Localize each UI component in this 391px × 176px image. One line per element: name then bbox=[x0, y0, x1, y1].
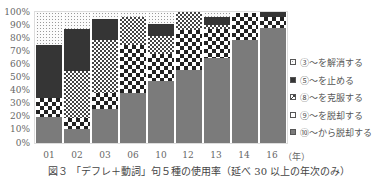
legend-item: ⑩～から脱却する bbox=[290, 126, 372, 138]
bar-segment bbox=[260, 12, 286, 17]
bar-16 bbox=[260, 12, 286, 143]
legend-label: ⑩～から脱却する bbox=[300, 126, 372, 139]
bar-02 bbox=[64, 12, 90, 143]
bar-segment bbox=[92, 109, 118, 143]
y-tick: 10% bbox=[0, 124, 30, 134]
bar-13 bbox=[204, 12, 230, 143]
bar-segment bbox=[204, 58, 230, 143]
black-swatch-icon bbox=[290, 77, 296, 83]
y-tick: 80% bbox=[0, 33, 30, 43]
y-tick: 100% bbox=[0, 7, 30, 17]
x-tick: 12 bbox=[175, 150, 201, 160]
bar-01 bbox=[36, 12, 62, 143]
y-tick: 40% bbox=[0, 85, 30, 95]
bar-segment bbox=[36, 45, 62, 99]
bar-segment bbox=[120, 12, 146, 17]
small-checker-swatch-icon bbox=[290, 94, 296, 100]
y-tick: 20% bbox=[0, 111, 30, 121]
bar-segment bbox=[64, 12, 90, 29]
bar-segment bbox=[148, 36, 174, 54]
bar-segment bbox=[176, 12, 202, 30]
bar-segment bbox=[92, 12, 118, 19]
bar-segment bbox=[232, 40, 258, 143]
bar-segment bbox=[232, 12, 258, 13]
bar-12 bbox=[176, 12, 202, 143]
x-tick: 14 bbox=[231, 150, 257, 160]
bar-segment bbox=[92, 93, 118, 109]
x-tick: 13 bbox=[203, 150, 229, 160]
bar-segment bbox=[232, 13, 258, 39]
legend-label: ⑧～を克服する bbox=[300, 91, 363, 104]
bar-segment bbox=[204, 25, 230, 29]
legend-item: ⑨～を脱却する bbox=[290, 109, 363, 121]
y-tick: 0% bbox=[0, 138, 30, 148]
bar-segment bbox=[64, 29, 90, 71]
bar-06 bbox=[120, 12, 146, 143]
bar-03 bbox=[92, 12, 118, 143]
y-tick: 50% bbox=[0, 72, 30, 82]
bar-segment bbox=[64, 129, 90, 143]
big-checker-swatch-icon bbox=[290, 112, 296, 118]
legend-item: ⑧～を克服する bbox=[290, 91, 363, 103]
y-tick: 60% bbox=[0, 59, 30, 69]
legend-label: ③～を解消する bbox=[300, 56, 363, 69]
bar-segment bbox=[64, 118, 90, 128]
y-tick: 70% bbox=[0, 46, 30, 56]
bar-10 bbox=[148, 12, 174, 143]
x-tick: 06 bbox=[120, 150, 146, 160]
bar-segment bbox=[120, 17, 146, 45]
bar-segment bbox=[148, 24, 174, 36]
bar-segment bbox=[92, 19, 118, 40]
bar-segment bbox=[64, 71, 90, 118]
y-tick: 90% bbox=[0, 20, 30, 30]
x-tick: 02 bbox=[64, 150, 90, 160]
legend-item: ③～を解消する bbox=[290, 56, 363, 68]
gray-swatch-icon bbox=[290, 129, 296, 135]
x-tick: 03 bbox=[92, 150, 118, 160]
figure-caption: 図３ 「デフレ＋動詞」句５種の使用率（延べ 30 以上の年次のみ） bbox=[48, 163, 350, 176]
x-tick: 10 bbox=[148, 150, 174, 160]
legend-label: ⑨～を脱却する bbox=[300, 109, 363, 122]
y-tick: 30% bbox=[0, 98, 30, 108]
bar-segment bbox=[36, 12, 62, 45]
x-axis-unit: （年） bbox=[283, 150, 313, 163]
bar-segment bbox=[120, 93, 146, 143]
bar-segment bbox=[120, 45, 146, 93]
x-tick: 16 bbox=[259, 150, 285, 160]
bar-segment bbox=[148, 54, 174, 82]
bar-segment bbox=[204, 17, 230, 25]
dotted-swatch-icon bbox=[290, 59, 296, 65]
bar-segment bbox=[148, 12, 174, 24]
x-tick: 01 bbox=[36, 150, 62, 160]
bar-segment bbox=[260, 28, 286, 143]
bar-segment bbox=[92, 40, 118, 94]
bar-segment bbox=[204, 29, 230, 58]
bar-14 bbox=[232, 12, 258, 143]
bar-segment bbox=[176, 30, 202, 69]
bar-segment bbox=[36, 98, 62, 116]
legend-item: ⑤～を止める bbox=[290, 74, 354, 86]
bar-segment bbox=[148, 81, 174, 143]
bar-segment bbox=[204, 12, 230, 17]
bar-segment bbox=[260, 17, 286, 27]
bar-segment bbox=[176, 70, 202, 143]
plot-area bbox=[34, 11, 288, 144]
legend-label: ⑤～を止める bbox=[300, 74, 354, 87]
bar-segment bbox=[36, 117, 62, 143]
